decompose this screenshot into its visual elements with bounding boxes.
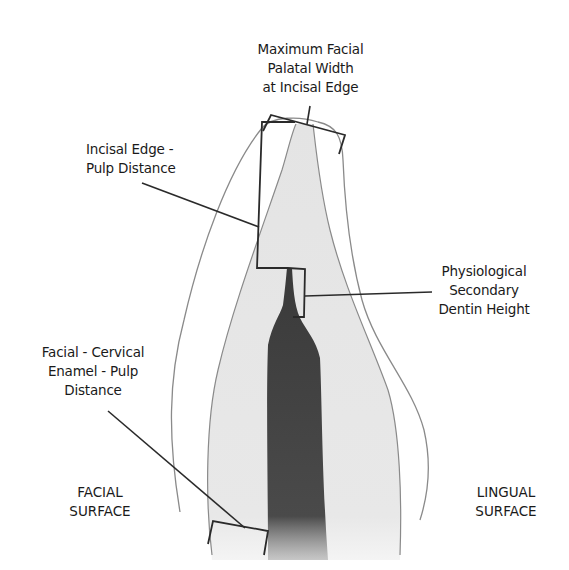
label-facial-cervical-enamel-pulp-distance: Facial - Cervical Enamel - Pulp Distance [28,343,158,400]
label-physiological-secondary-dentin-height: Physiological Secondary Dentin Height [428,262,540,319]
label-line: SURFACE [60,502,140,521]
label-line: Distance [28,381,158,400]
label-facial-surface: FACIAL SURFACE [60,483,140,521]
label-incisal-edge-pulp-distance: Incisal Edge - Pulp Distance [86,140,176,178]
label-line: Enamel - Pulp [28,362,158,381]
label-line: at Incisal Edge [248,78,373,97]
label-line: Incisal Edge - [86,140,176,159]
label-line: Dentin Height [428,300,540,319]
label-line: Maximum Facial [248,40,373,59]
label-line: Physiological [428,262,540,281]
label-line: Secondary [428,281,540,300]
label-line: SURFACE [466,502,546,521]
label-line: LINGUAL [466,483,546,502]
label-max-facial-palatal-width: Maximum Facial Palatal Width at Incisal … [248,40,373,97]
label-line: Pulp Distance [86,159,176,178]
label-line: Facial - Cervical [28,343,158,362]
max-width-leader [307,106,310,124]
incisal-pulp-leader [142,183,259,227]
label-line: FACIAL [60,483,140,502]
label-lingual-surface: LINGUAL SURFACE [466,483,546,521]
label-line: Palatal Width [248,59,373,78]
